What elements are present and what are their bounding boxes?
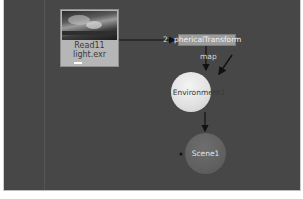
scene-node-label: Scene1	[185, 149, 226, 158]
connection-wires	[4, 0, 300, 190]
spherical-transform-node[interactable]: phericalTransform	[178, 34, 236, 46]
read-node-name: Read11	[61, 41, 118, 50]
read-node-file: light.exr	[61, 50, 118, 59]
node-graph-canvas[interactable]: Read11 light.exr 2 phericalTransform map…	[3, 0, 301, 191]
environment-node-label: Environment1	[167, 88, 231, 97]
input-port-label-map: map	[200, 52, 217, 61]
input-port-label-2: 2	[163, 35, 168, 44]
read-node-progress	[74, 62, 82, 64]
read-node[interactable]: Read11 light.exr	[60, 9, 119, 67]
spherical-transform-label: phericalTransform	[174, 35, 241, 44]
read-node-thumbnail	[62, 11, 117, 40]
read-node-label: Read11 light.exr	[61, 41, 118, 59]
